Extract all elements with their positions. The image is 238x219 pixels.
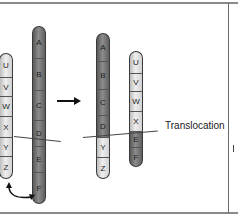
segment-label: A [100, 43, 105, 52]
segment: A [96, 33, 110, 61]
segment-label: F [37, 184, 42, 193]
segment-label: Y [3, 143, 8, 152]
segment-label: D [100, 122, 106, 131]
translocation-label: Translocation [165, 120, 225, 131]
segment-label: W [2, 102, 10, 111]
segment-label: E [36, 155, 41, 164]
segment-label: V [3, 83, 8, 92]
curved-double-arrow-icon [4, 182, 36, 204]
segment-label: U [133, 58, 139, 67]
segment-label: C [36, 101, 42, 110]
chromosome-after-light-recombined: U V W X E F [129, 51, 143, 167]
segment: V [129, 73, 143, 91]
segment: Z [0, 156, 13, 179]
segment-label: Z [101, 164, 106, 173]
segment: X [0, 116, 13, 137]
segment-label: C [100, 98, 106, 107]
segment: U [0, 53, 13, 77]
segment-label: Y [100, 143, 105, 152]
segment-label: B [36, 70, 41, 79]
chromosome-before-dark: A B C D E F [32, 26, 46, 204]
segment: B [96, 61, 110, 89]
frame-bottom-border [0, 212, 238, 214]
segment-label: D [36, 129, 42, 138]
segment-label: W [132, 97, 140, 106]
segment-label: A [36, 38, 41, 47]
cropped-text-mark [233, 145, 234, 152]
segment-label: X [3, 123, 8, 132]
break-line-after [83, 130, 158, 138]
segment: W [129, 91, 143, 111]
segment: V [0, 77, 13, 96]
segment: D [96, 115, 110, 137]
segment: E [32, 146, 46, 172]
segment-label: X [133, 117, 138, 126]
segment: B [32, 58, 46, 90]
segment-label: Z [4, 163, 9, 172]
segment-label: F [134, 153, 139, 162]
segment-label: B [100, 71, 105, 80]
segment-label: V [133, 78, 138, 87]
chromosome-before-light: U V W X Y Z [0, 53, 13, 179]
chromosome-after-dark-recombined: A B C D Y Z [96, 33, 110, 179]
segment: Y [0, 137, 13, 156]
frame-right-divider [228, 3, 229, 213]
segment: F [129, 147, 143, 167]
segment: X [129, 111, 143, 131]
segment: C [96, 89, 110, 115]
frame-top-border [0, 2, 238, 4]
segment: Z [96, 157, 110, 179]
segment: A [32, 26, 46, 58]
segment: Y [96, 137, 110, 157]
segment: C [32, 90, 46, 120]
segment: D [32, 120, 46, 146]
segment: U [129, 51, 143, 73]
segment: W [0, 96, 13, 116]
segment-label: E [133, 135, 138, 144]
right-arrow-head-icon [74, 97, 81, 105]
right-arrow-icon [57, 100, 75, 102]
segment-label: U [3, 61, 9, 70]
